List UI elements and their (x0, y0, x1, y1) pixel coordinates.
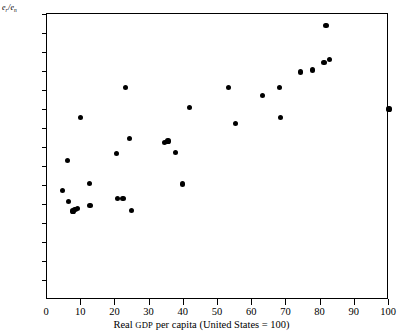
x-axis-label: Real GDP per capita (United States = 100… (0, 319, 403, 331)
x-axis-tick-label: 0 (31, 307, 61, 318)
x-axis-tick (320, 299, 321, 305)
x-axis-tick-label: 100 (373, 307, 403, 318)
y-axis-tick (42, 71, 47, 72)
data-point (260, 93, 265, 98)
data-point (115, 196, 120, 201)
data-point (114, 151, 119, 156)
data-point (233, 121, 238, 126)
y-axis-tick (42, 90, 47, 91)
x-axis-label-prefix: Real (113, 319, 135, 330)
x-axis-tick-label: 70 (270, 307, 300, 318)
y-axis-tick (42, 33, 47, 34)
data-point (75, 206, 80, 211)
x-axis-line (46, 298, 388, 299)
x-axis-tick-label: 60 (236, 307, 266, 318)
scatter-plot-figure: er/en 0.10.20.30.40.50.60.70.80.91.01.11… (0, 0, 403, 333)
data-point (129, 208, 134, 213)
data-point (87, 203, 92, 208)
x-axis-tick-label: 90 (339, 307, 369, 318)
y-axis-tick (42, 52, 47, 53)
x-axis-tick-label: 10 (65, 307, 95, 318)
data-point (323, 23, 328, 28)
x-axis-tick-label: 20 (99, 307, 129, 318)
data-point (60, 188, 65, 193)
x-axis-label-suffix: per capita (United States = 100) (153, 319, 290, 330)
y-axis-tick (42, 280, 47, 281)
data-point (226, 85, 231, 90)
data-point (173, 150, 178, 155)
y-axis-tick (42, 14, 47, 15)
x-axis-tick (354, 299, 355, 305)
y-axis-tick (42, 242, 47, 243)
data-point (321, 60, 326, 65)
data-point (87, 181, 92, 186)
x-axis-tick-label: 50 (202, 307, 232, 318)
y-axis-title-numerator-subscript: r (6, 7, 8, 13)
data-point (65, 158, 70, 163)
data-point (165, 138, 170, 143)
y-axis-tick (42, 261, 47, 262)
data-point (386, 106, 391, 111)
x-axis-tick (114, 299, 115, 305)
data-point (180, 181, 185, 186)
x-axis-tick (149, 299, 150, 305)
data-point (123, 85, 128, 90)
y-axis-tick (42, 147, 47, 148)
data-point (66, 199, 71, 204)
y-axis-tick (42, 166, 47, 167)
x-axis-tick (80, 299, 81, 305)
x-axis-tick (388, 299, 389, 305)
y-axis-tick (42, 204, 47, 205)
data-point (298, 69, 303, 74)
x-axis-tick-label: 80 (305, 307, 335, 318)
data-point (187, 105, 192, 110)
x-axis-tick-label: 40 (168, 307, 198, 318)
data-point (120, 196, 125, 201)
data-point (278, 115, 283, 120)
data-point (78, 115, 83, 120)
x-axis-label-gdp: GDP (135, 320, 153, 330)
data-point (277, 85, 282, 90)
x-axis-tick-label: 30 (134, 307, 164, 318)
plot-area (46, 13, 388, 298)
x-axis-tick (217, 299, 218, 305)
x-axis-tick (285, 299, 286, 305)
y-axis-tick (42, 109, 47, 110)
data-point (327, 57, 332, 62)
y-axis-tick (42, 185, 47, 186)
y-axis-tick (42, 128, 47, 129)
data-point (127, 136, 132, 141)
data-point (310, 67, 315, 72)
y-axis-title: er/en (2, 3, 17, 13)
x-axis-tick (251, 299, 252, 305)
x-axis-tick (183, 299, 184, 305)
y-axis-tick (42, 223, 47, 224)
y-axis-title-denominator-subscript: n (14, 7, 17, 13)
